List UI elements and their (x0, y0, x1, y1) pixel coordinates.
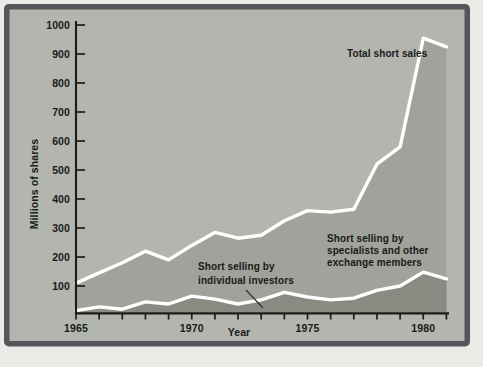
x-tick-label: 1970 (180, 322, 204, 334)
annotation-line: Short selling by (327, 233, 404, 244)
y-tick-label: 700 (52, 106, 70, 118)
x-tick-label: 1980 (411, 322, 435, 334)
x-tick-label: 1965 (64, 322, 88, 334)
x-axis-title: Year (228, 326, 251, 338)
y-tick-label: 600 (52, 135, 70, 147)
figure: 1002003004005006007008009001000 19651970… (0, 0, 483, 367)
x-tick-label: 1975 (296, 322, 320, 334)
short-sales-chart: 1002003004005006007008009001000 19651970… (0, 0, 483, 367)
y-tick-label: 400 (52, 193, 70, 205)
annotation-line: specialists and other (327, 245, 429, 256)
y-tick-label: 800 (52, 77, 70, 89)
annotation-line: exchange members (327, 257, 422, 268)
annotation-line: Total short sales (347, 48, 428, 59)
y-tick-label: 300 (52, 222, 70, 234)
y-tick-label: 1000 (46, 19, 70, 31)
annotation-line: Short selling by (198, 261, 275, 272)
annotation-line: individual investors (198, 275, 294, 286)
y-tick-label: 500 (52, 164, 70, 176)
y-tick-label: 900 (52, 48, 70, 60)
y-tick-label: 200 (52, 251, 70, 263)
y-axis-title: Millions of shares (28, 139, 40, 230)
annotation-total-short-sales: Total short sales (347, 48, 428, 59)
y-tick-label: 100 (52, 280, 70, 292)
